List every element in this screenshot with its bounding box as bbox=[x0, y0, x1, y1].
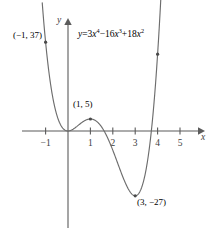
data-point-marker bbox=[156, 53, 159, 56]
point-label-1-5: (1, 5) bbox=[73, 99, 93, 109]
data-point-marker bbox=[89, 117, 92, 120]
y-axis-arrowhead bbox=[64, 18, 71, 25]
equation-annotation: y=3x4−16x3+18x2 bbox=[78, 27, 144, 39]
x-tick-label-1: 1 bbox=[88, 138, 93, 148]
data-point-marker bbox=[44, 41, 47, 44]
equation-term3-exponent: 2 bbox=[141, 27, 144, 34]
y-axis-label: y bbox=[56, 15, 62, 25]
x-axis-label: x bbox=[200, 132, 206, 142]
x-tick-label-neg1: −1 bbox=[41, 138, 51, 148]
x-tick-label-4: 4 bbox=[155, 138, 160, 148]
point-label-3-neg27: (3, −27) bbox=[137, 197, 166, 207]
equation-term3-coef: 18 bbox=[127, 29, 137, 39]
equation-term2-coef: 16 bbox=[105, 29, 115, 39]
point-label-neg1-37: (−1, 37) bbox=[13, 30, 42, 40]
x-tick-label-5: 5 bbox=[178, 138, 183, 148]
quartic-function-figure: −1 1 2 3 4 5 x y y=3x4−16x3+18x2 (−1, 37… bbox=[0, 0, 214, 232]
x-tick-label-3: 3 bbox=[133, 138, 138, 148]
